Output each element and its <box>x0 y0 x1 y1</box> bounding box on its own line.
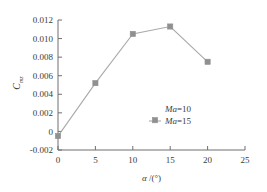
x-axis-title: α /(°) <box>142 173 161 183</box>
legend-label-1: Ma=15 <box>164 116 192 126</box>
chart-canvas: -0.00200.0020.0040.0060.0080.0100.012 05… <box>0 0 267 192</box>
tick-marks-group <box>58 20 245 150</box>
y-tick-label: 0 <box>49 127 54 137</box>
y-tick-label: 0.012 <box>33 15 53 25</box>
y-tick-label: 0.002 <box>33 108 53 118</box>
legend-label-0: Ma=10 <box>164 104 192 114</box>
y-tick-label: 0.006 <box>33 71 54 81</box>
x-tick-label: 15 <box>166 155 176 165</box>
x-tick-label: 20 <box>203 155 213 165</box>
data-point-marker <box>130 31 135 36</box>
x-axis-tick-labels: 0510152025 <box>56 155 250 165</box>
y-tick-label: 0.008 <box>33 52 54 62</box>
x-axis-title-text: α /(°) <box>142 173 161 183</box>
data-point-marker <box>55 133 60 138</box>
x-tick-label: 0 <box>56 155 61 165</box>
x-tick-label: 25 <box>241 155 251 165</box>
y-tick-label: 0.010 <box>33 34 54 44</box>
y-axis-title: Cmz <box>10 60 24 106</box>
data-point-marker <box>93 81 98 86</box>
y-axis-title-text: Cmz <box>11 76 24 89</box>
x-tick-label: 5 <box>93 155 98 165</box>
y-tick-label: -0.002 <box>30 145 53 155</box>
data-point-marker <box>168 24 173 29</box>
y-tick-label: 0.004 <box>33 89 54 99</box>
y-axis-tick-labels: -0.00200.0020.0040.0060.0080.0100.012 <box>30 15 54 155</box>
chart-figure: -0.00200.0020.0040.0060.0080.0100.012 05… <box>0 0 267 192</box>
chart-legend: Ma=10Ma=15 <box>149 104 192 126</box>
x-tick-label: 10 <box>128 155 138 165</box>
axes-group <box>58 20 245 150</box>
data-point-marker <box>205 59 210 64</box>
legend-marker-swatch <box>152 118 157 123</box>
